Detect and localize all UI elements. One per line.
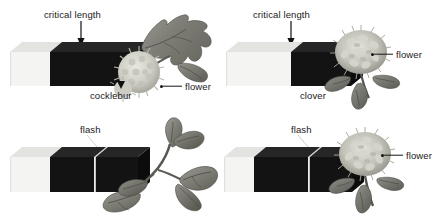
panel-top-left: critical length xyxy=(0,0,221,108)
panel-bottom-right: flash xyxy=(221,108,441,215)
leader-flower-top-right xyxy=(374,53,396,57)
label-flower-top-right: flower xyxy=(396,49,422,60)
leader-flower-top-left xyxy=(163,85,185,89)
plant-clover-bottom-right xyxy=(331,126,441,215)
plant-clover-top-right xyxy=(325,24,435,108)
label-critical-length-top-left: critical length xyxy=(44,9,101,20)
label-flash-bottom-right: flash xyxy=(291,124,312,135)
label-critical-length-top-right: critical length xyxy=(253,9,310,20)
panel-bottom-left: flash xyxy=(0,108,221,215)
panel-top-right: critical length xyxy=(221,0,441,108)
label-plant-top-right: clover xyxy=(300,90,326,101)
label-plant-top-left: cocklebur xyxy=(90,90,132,101)
label-flower-top-left: flower xyxy=(185,81,211,92)
leader-flower-bottom-right xyxy=(384,154,406,158)
plant-cocklebur-bottom-left xyxy=(84,118,220,214)
label-flower-bottom-right: flower xyxy=(406,150,432,161)
photoperiodism-figure: critical length xyxy=(0,0,441,215)
